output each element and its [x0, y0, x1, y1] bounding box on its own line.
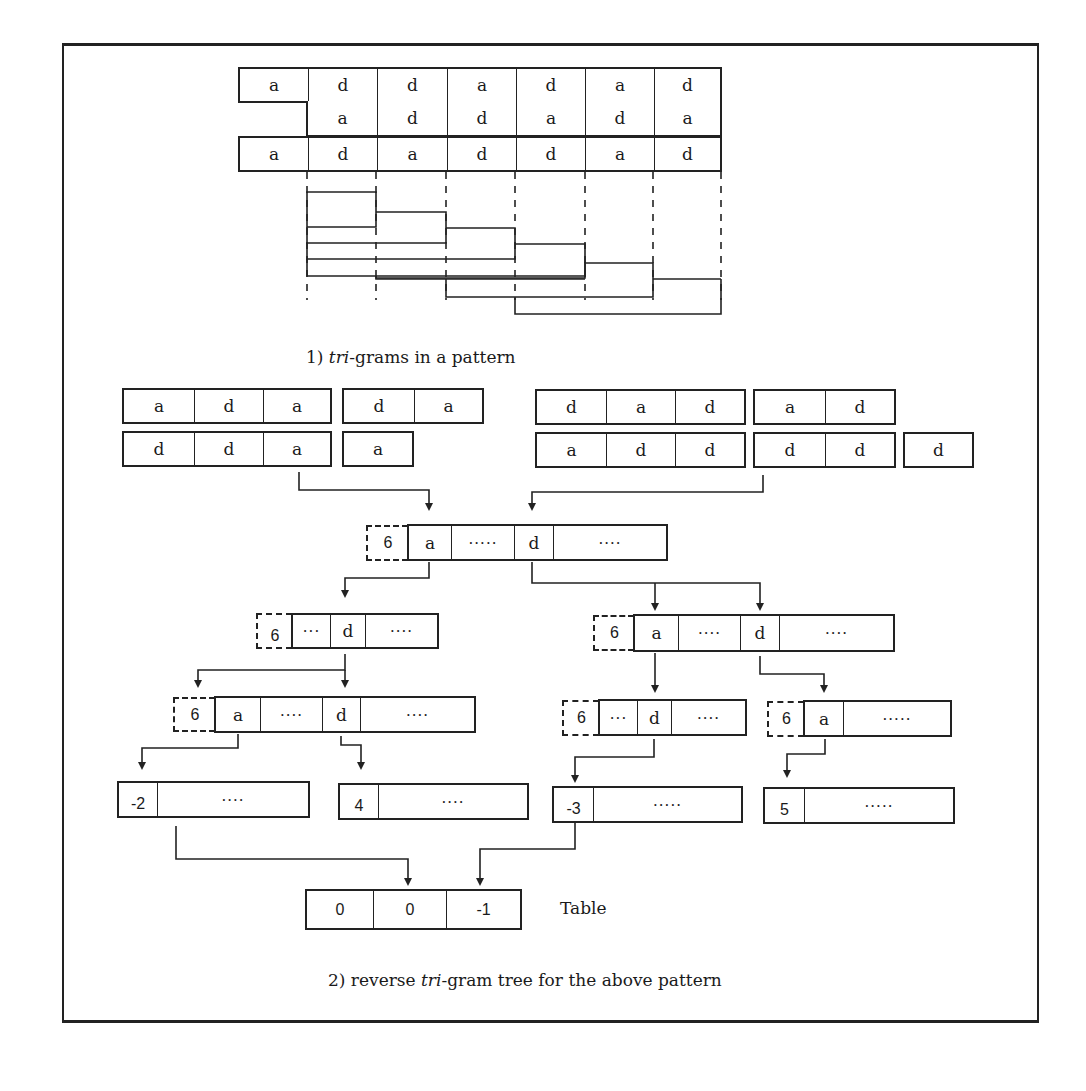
shift-table: 0 0 -1 — [305, 889, 522, 930]
trigram-group-left-row2: d d a — [122, 431, 332, 467]
node-cell: d — [638, 701, 672, 734]
gram-cell: a — [264, 390, 330, 422]
level2-right-node: a ···· d ···· — [633, 614, 895, 652]
caption-text: 1) — [306, 347, 329, 367]
level3-left-count: 6 — [173, 697, 215, 732]
gram-cell: d — [344, 390, 415, 422]
leaf-node: -2 ···· — [117, 781, 310, 818]
gram-cell: d — [124, 433, 195, 465]
count-value: 6 — [610, 624, 619, 642]
gram-cell: d — [905, 434, 972, 466]
leaf-node: 4 ···· — [338, 783, 529, 820]
unigram-group-left-row2: a — [342, 431, 414, 467]
bigram-group-left-row1: d a — [342, 388, 484, 424]
node-cell: ···· — [780, 616, 893, 650]
caption-text: -gram tree for the above pattern — [441, 970, 721, 990]
trigram-group-right-row2: a d d — [535, 432, 746, 468]
node-cell: ···· — [672, 701, 745, 734]
count-value: 6 — [577, 709, 586, 727]
level2-right-count: 6 — [593, 615, 634, 651]
node-cell: ···· — [361, 698, 474, 731]
node-cell: a — [635, 616, 679, 650]
level3-mid-count: 6 — [562, 700, 599, 736]
caption-part2: 2) reverse tri-gram tree for the above p… — [328, 970, 722, 990]
node-cell: d — [515, 526, 554, 559]
node-cell: ··· — [600, 701, 638, 734]
bigram-group-right-row1: a d — [753, 389, 896, 425]
gram-cell: a — [607, 391, 676, 423]
node-cell: d — [741, 616, 780, 650]
node-cell: ···· — [261, 698, 323, 731]
node-cell: ···· — [366, 615, 437, 647]
unigram-group-right-row2: d — [903, 432, 974, 468]
caption-text: 2) reverse — [328, 970, 421, 990]
node-cell: d — [331, 615, 366, 647]
table-cell: 0 — [374, 891, 447, 928]
table-cell: -1 — [447, 891, 520, 928]
leaf-rest: ···· — [379, 785, 527, 818]
gram-cell: a — [537, 434, 607, 466]
gram-cell: a — [124, 390, 195, 422]
leaf-value: -3 — [554, 788, 594, 821]
count-value: 6 — [191, 706, 200, 724]
node-cell: ···· — [554, 526, 666, 559]
table-cell: 0 — [307, 891, 374, 928]
node-cell: d — [323, 698, 361, 731]
root-node: a ····· d ···· — [407, 524, 668, 561]
leaf-node: 5 ····· — [763, 787, 955, 824]
gram-cell: d — [826, 434, 894, 466]
gram-cell: d — [826, 391, 894, 423]
node-cell: ···· — [679, 616, 741, 650]
gram-cell: a — [264, 433, 330, 465]
caption-italic: tri — [421, 970, 441, 990]
trigram-group-left-row1: a d a — [122, 388, 332, 424]
level2-left-count: 6 — [256, 613, 292, 649]
gram-cell: d — [676, 434, 744, 466]
leaf-rest: ····· — [594, 788, 741, 821]
gram-cell: d — [195, 390, 264, 422]
gram-cell: d — [537, 391, 607, 423]
count-value: 6 — [271, 627, 280, 645]
node-cell: ····· — [452, 526, 515, 559]
gram-cell: d — [195, 433, 264, 465]
trigram-group-right-row1: d a d — [535, 389, 746, 425]
caption-italic: tri — [329, 347, 349, 367]
node-cell: a — [216, 698, 261, 731]
node-cell: a — [805, 702, 844, 735]
gram-cell: d — [607, 434, 676, 466]
leaf-rest: ···· — [158, 783, 308, 816]
gram-cell: d — [755, 434, 826, 466]
level3-mid-node: ··· d ···· — [598, 699, 747, 736]
leaf-value: 5 — [765, 789, 805, 822]
root-count: 6 — [366, 525, 408, 561]
level3-left-node: a ···· d ···· — [214, 696, 476, 733]
node-cell: a — [409, 526, 452, 559]
caption-text: -grams in a pattern — [349, 347, 515, 367]
gram-cell: d — [676, 391, 744, 423]
gram-cell: a — [344, 433, 412, 465]
node-cell: ····· — [844, 702, 950, 735]
leaf-value: 4 — [340, 785, 379, 818]
level2-left-node: ··· d ···· — [291, 613, 439, 649]
level3-right-count: 6 — [767, 701, 804, 737]
table-label: Table — [560, 898, 607, 918]
leaf-rest: ····· — [805, 789, 953, 822]
count-value: 6 — [782, 710, 791, 728]
caption-part1: 1) tri-grams in a pattern — [306, 347, 516, 367]
gram-cell: a — [755, 391, 826, 423]
leaf-node: -3 ····· — [552, 786, 743, 823]
count-value: 6 — [384, 534, 393, 552]
level3-right-node: a ····· — [803, 700, 952, 737]
node-cell: ··· — [293, 615, 331, 647]
leaf-value: -2 — [119, 783, 158, 816]
bigram-group-right-row2: d d — [753, 432, 896, 468]
gram-cell: a — [415, 390, 482, 422]
